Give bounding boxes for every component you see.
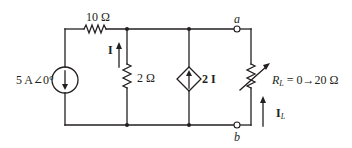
terminal-a: [234, 26, 240, 32]
junction-dot-top: [125, 27, 129, 31]
resistor-load: [247, 64, 255, 88]
variable-arrow-line: [240, 67, 266, 90]
label-terminal-a: a: [234, 13, 240, 25]
resistor-10-ohm: [84, 25, 106, 33]
junction-dot-dep-top: [187, 27, 191, 31]
label-load-current: IL: [276, 107, 285, 121]
label-current-I: I: [108, 44, 113, 56]
current-IL-arrowhead: [260, 96, 266, 103]
label-series-resistor: 10 Ω: [86, 11, 110, 23]
label-shunt-resistor: 2 Ω: [137, 72, 155, 84]
label-dependent-source: 2 I: [202, 73, 216, 85]
resistor-2-ohm: [123, 64, 131, 88]
current-I-arrowhead: [116, 42, 122, 49]
label-load-resistor: RL = 0→20 Ω: [272, 74, 338, 88]
label-current-source: 5 A∠0°: [16, 74, 54, 86]
junction-dot-dep-bottom: [187, 123, 191, 127]
label-IL-sub: L: [281, 112, 285, 121]
circuit-diagram: 10 Ω 5 A∠0° I 2 Ω 2 I a b RL = 0→20 Ω IL: [0, 0, 352, 148]
junction-dot-bottom: [125, 123, 129, 127]
dep-source-arrowhead: [186, 70, 192, 76]
current-source-arrowhead: [62, 84, 68, 90]
terminal-b: [234, 122, 240, 128]
label-load-range: = 0→20 Ω: [284, 73, 339, 87]
label-terminal-b: b: [234, 131, 240, 143]
